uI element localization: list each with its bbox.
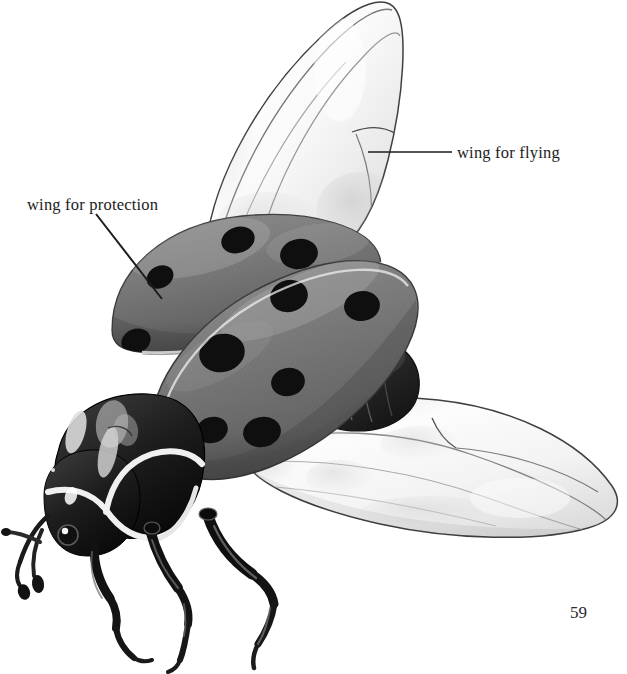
head-and-pronotum (44, 394, 205, 556)
antennae (1, 516, 48, 601)
compound-eye (58, 525, 78, 545)
illustration-page: wing for flying wing for protection 59 (0, 0, 627, 674)
hind-leg (208, 516, 274, 668)
ladybug-illustration (0, 0, 627, 674)
front-leg (91, 546, 152, 661)
middle-leg (150, 530, 189, 672)
callout-label-wing-for-protection: wing for protection (27, 195, 158, 215)
page-number: 59 (570, 603, 587, 623)
callout-label-wing-for-flying: wing for flying (457, 143, 560, 163)
